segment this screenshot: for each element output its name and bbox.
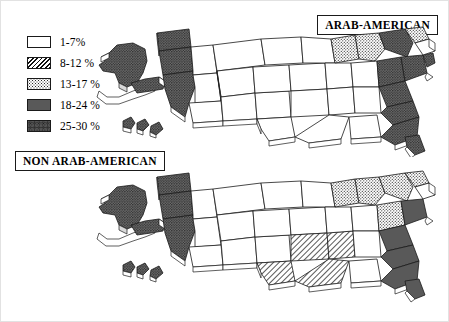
state-arkansas (327, 231, 355, 259)
state-newmexico (221, 237, 257, 265)
state-oregon (159, 47, 193, 75)
state-iowa (325, 63, 353, 89)
state-montana (213, 183, 265, 215)
state-colorado-kansas (255, 91, 291, 119)
state-texas (257, 117, 295, 141)
state-minnesota-w (301, 181, 335, 207)
state-wisconsin (331, 35, 359, 63)
state-nevada (193, 73, 221, 103)
state-hawaii (123, 117, 163, 138)
state-oklahoma (291, 233, 329, 261)
state-texas (257, 261, 295, 285)
state-wyoming (217, 211, 255, 241)
state-montana (213, 39, 265, 71)
state-iowa (325, 207, 353, 233)
state-colorado-kansas (255, 235, 291, 263)
state-minnesota-w (301, 37, 335, 63)
state-oklahoma (291, 89, 329, 117)
state-arizona (189, 101, 223, 123)
state-arkansas-missouri (327, 87, 355, 115)
state-nebraska (289, 63, 327, 91)
state-alaska (97, 185, 165, 246)
state-oregon (159, 191, 193, 219)
state-nebraska (289, 207, 327, 235)
state-hawaii (123, 261, 163, 282)
state-northdakota (261, 181, 303, 209)
legend-swatch-white-icon (27, 36, 51, 48)
state-idaho (191, 45, 217, 75)
state-northdakota (261, 37, 303, 65)
state-tennessee-kentucky (353, 87, 381, 113)
state-idaho (191, 189, 217, 219)
state-dakotas (253, 209, 291, 237)
legend-swatch-dots-icon (27, 78, 51, 90)
legend-swatch-hatch-icon (27, 57, 51, 69)
state-arizona (189, 245, 223, 267)
state-nevada (193, 217, 221, 247)
state-mississippi-alabama (349, 259, 381, 283)
map-arab-american (93, 25, 445, 157)
legend-label-1-7: 1-7% (60, 36, 85, 48)
legend-swatch-dark-icon (27, 99, 51, 111)
legend-label-8-12: 8-12 % (60, 57, 94, 69)
state-dakotas (253, 65, 291, 93)
state-wyoming (217, 67, 255, 97)
state-illinois (351, 61, 379, 87)
state-wisconsin (331, 179, 359, 207)
state-alaska (97, 43, 165, 104)
state-mississippi-alabama (349, 115, 381, 139)
state-illinois (351, 205, 379, 231)
state-pennsylvania (401, 199, 427, 225)
legend-swatch-stipple-icon (27, 120, 51, 132)
map-non-arab-american-svg (93, 165, 445, 305)
state-tennessee-kentucky (353, 231, 381, 257)
state-newmexico (221, 93, 257, 121)
figure-frame: 1-7% 8-12 % 13-17 % 18-24 % 25-30 % ARAB… (0, 0, 449, 322)
state-pennsylvania (401, 55, 427, 81)
map-non-arab-american (93, 165, 445, 305)
map-arab-american-svg (93, 25, 445, 157)
